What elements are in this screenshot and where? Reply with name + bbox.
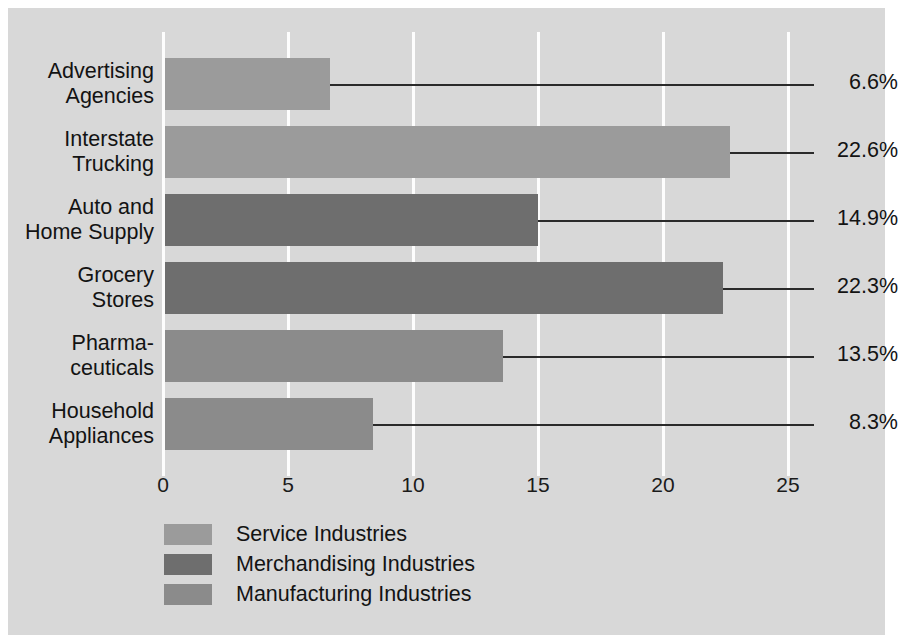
category-label: InterstateTrucking: [8, 127, 154, 177]
bar: [165, 262, 723, 314]
bar: [165, 330, 503, 382]
category-label: Auto andHome Supply: [8, 195, 154, 245]
category-label-line2: Appliances: [8, 424, 154, 449]
x-axis-tick-label: 5: [258, 473, 318, 497]
tick-mark-15: [537, 454, 540, 464]
leader-line: [730, 152, 814, 154]
plot-area: 0510152025 AdvertisingAgenciesInterstate…: [8, 8, 885, 635]
x-axis-tick-label: 20: [633, 473, 693, 497]
category-label-line2: Home Supply: [8, 220, 154, 245]
value-label: 22.3%: [820, 274, 898, 299]
tick-mark-25: [787, 454, 790, 464]
chart-frame: 0510152025 AdvertisingAgenciesInterstate…: [8, 8, 885, 635]
gridline-25: [787, 32, 790, 476]
legend-swatch: [164, 524, 212, 545]
category-label: HouseholdAppliances: [8, 399, 154, 449]
value-label: 14.9%: [820, 206, 898, 231]
bar: [165, 194, 538, 246]
category-label-line1: Grocery: [8, 263, 154, 288]
category-label-line2: Agencies: [8, 84, 154, 109]
legend-label: Manufacturing Industries: [236, 580, 471, 608]
bar: [165, 126, 730, 178]
gridline-20: [662, 32, 665, 476]
gridline-10: [412, 32, 415, 476]
value-label: 22.6%: [820, 138, 898, 163]
category-label-line1: Advertising: [8, 59, 154, 84]
bar: [165, 58, 330, 110]
value-label: 6.6%: [820, 70, 898, 95]
tick-mark-5: [287, 454, 290, 464]
x-axis-tick-label: 0: [133, 473, 193, 497]
bar: [165, 398, 373, 450]
legend-label: Service Industries: [236, 520, 407, 548]
leader-line: [538, 220, 815, 222]
category-label-line1: Interstate: [8, 127, 154, 152]
category-label: AdvertisingAgencies: [8, 59, 154, 109]
gridline-15: [537, 32, 540, 476]
tick-mark-0: [162, 454, 165, 464]
x-axis-tick-label: 10: [383, 473, 443, 497]
leader-line: [373, 424, 815, 426]
legend-swatch: [164, 584, 212, 605]
x-axis-tick-label: 15: [508, 473, 568, 497]
x-axis-tick-label: 25: [758, 473, 818, 497]
value-label: 13.5%: [820, 342, 898, 367]
value-label: 8.3%: [820, 410, 898, 435]
category-label-line2: Stores: [8, 288, 154, 313]
leader-line: [330, 84, 814, 86]
category-label-line2: ceuticals: [8, 356, 154, 381]
category-label: GroceryStores: [8, 263, 154, 313]
leader-line: [723, 288, 815, 290]
leader-line: [503, 356, 815, 358]
category-label-line1: Household: [8, 399, 154, 424]
category-label-line1: Pharma-: [8, 331, 154, 356]
legend-swatch: [164, 554, 212, 575]
tick-mark-10: [412, 454, 415, 464]
legend-label: Merchandising Industries: [236, 550, 475, 578]
tick-mark-20: [662, 454, 665, 464]
category-label-line2: Trucking: [8, 152, 154, 177]
category-label: Pharma-ceuticals: [8, 331, 154, 381]
category-label-line1: Auto and: [8, 195, 154, 220]
